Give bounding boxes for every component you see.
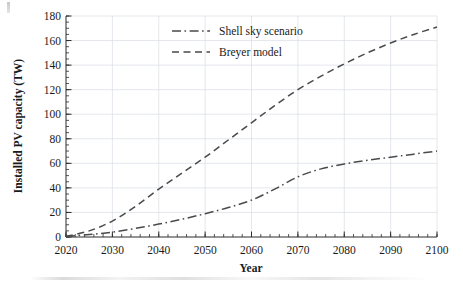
x-tick-label: 2060 [240,244,263,256]
chart-figure: 020406080100120140160180 202020302040205… [0,0,463,286]
y-tick-label: 180 [44,10,62,22]
y-tick-label: 80 [50,133,62,145]
x-axis-title: Year [240,262,263,274]
y-tick-label: 20 [50,206,62,218]
x-tick-label: 2030 [101,244,124,256]
x-tick-label: 2100 [426,244,449,256]
y-tick-label: 100 [44,108,62,120]
line-chart: 020406080100120140160180 202020302040205… [0,0,463,286]
x-tick-label: 2050 [194,244,217,256]
y-axis-title: Installed PV capacity (TW) [12,59,25,193]
x-tick-label: 2040 [147,244,170,256]
scan-artifact-corner [7,2,10,13]
scan-artifact-bottom [30,277,430,280]
y-tick-label: 40 [50,182,62,194]
y-tick-label: 140 [44,59,62,71]
x-tick-label: 2080 [333,244,356,256]
x-tick-label: 2070 [286,244,309,256]
chart-legend: Shell sky scenarioBreyer model [172,25,303,59]
legend-label-2: Breyer model [219,46,282,59]
y-tick-label: 120 [44,84,62,96]
y-axis-tick-labels: 020406080100120140160180 [44,10,62,243]
y-tick-label: 0 [55,231,61,243]
x-axis-tick-labels: 202020302040205020602070208020902100 [55,244,449,256]
x-tick-label: 2020 [55,244,78,256]
y-tick-label: 60 [50,157,62,169]
y-tick-label: 160 [44,35,62,47]
x-tick-label: 2090 [379,244,402,256]
legend-label-1: Shell sky scenario [219,25,303,38]
